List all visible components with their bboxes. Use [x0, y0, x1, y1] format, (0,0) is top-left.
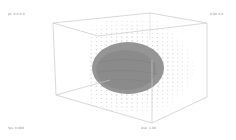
ellipsoid-blob: [92, 42, 164, 94]
bottom-center-info-label: dist: 1.00: [141, 126, 156, 130]
scene-canvas[interactable]: [0, 0, 236, 140]
top-left-info-label: pt: 0.0 0.0: [8, 12, 25, 16]
bottom-left-info-label: fps: 0.000: [8, 126, 24, 130]
3d-viewport[interactable]: pt: 0.0 0.0 0.00 0.0 fps: 0.000 dist: 1.…: [0, 0, 236, 140]
top-right-info-label: 0.00 0.0: [210, 12, 223, 16]
